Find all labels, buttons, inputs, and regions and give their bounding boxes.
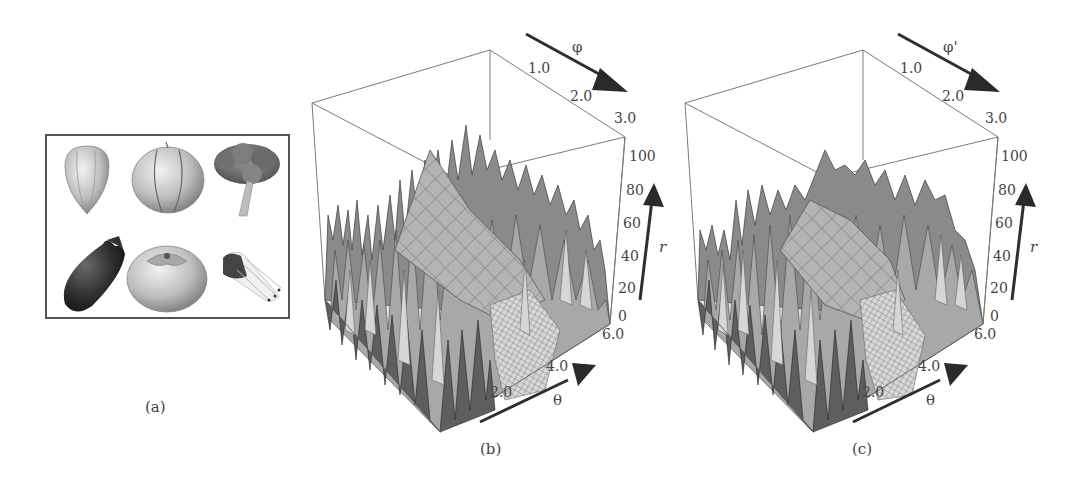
theta-axis-label-c: θ	[926, 391, 935, 409]
r-tick-b-40: 40	[621, 248, 639, 264]
r-tick-b-20: 20	[618, 280, 636, 296]
caption-c: (c)	[852, 440, 872, 458]
r-tick-b-100: 100	[629, 148, 656, 164]
theta-tick-c-6: 6.0	[974, 326, 996, 342]
r-arrow-b	[640, 200, 652, 300]
theta-tick-c-4: 4.0	[918, 358, 940, 374]
theta-arrowhead-c	[944, 363, 968, 386]
phi-tick-c-2: 2.0	[942, 88, 964, 104]
phi-axis-label-c: φ'	[943, 38, 958, 56]
theta-tick-b-4: 4.0	[546, 358, 568, 374]
r-arrow-c	[1012, 200, 1024, 300]
r-arrowhead-b	[643, 183, 664, 207]
phi-tick-b-1: 1.0	[528, 60, 550, 76]
phi-tick-b-2: 2.0	[570, 88, 592, 104]
r-tick-c-60: 60	[995, 215, 1013, 231]
r-tick-b-0: 0	[618, 308, 627, 324]
phi-tick-c-1: 1.0	[900, 60, 922, 76]
r-tick-c-80: 80	[998, 182, 1016, 198]
phi-tick-b-3: 3.0	[614, 110, 636, 126]
theta-tick-c-2: 2.0	[862, 384, 884, 400]
r-tick-c-0: 0	[990, 308, 999, 324]
r-tick-c-20: 20	[990, 280, 1008, 296]
r-tick-b-80: 80	[626, 182, 644, 198]
r-tick-c-40: 40	[993, 248, 1011, 264]
caption-b: (b)	[480, 440, 501, 458]
r-arrowhead-c	[1015, 183, 1036, 207]
r-tick-c-100: 100	[1001, 148, 1028, 164]
r-axis-label-b: r	[659, 238, 666, 256]
theta-axis-label-b: θ	[553, 391, 562, 409]
phi-axis-label-b: φ	[572, 38, 583, 56]
theta-tick-b-2: 2.0	[490, 384, 512, 400]
phi-tick-c-3: 3.0	[985, 110, 1007, 126]
r-tick-b-60: 60	[623, 215, 641, 231]
theta-tick-b-6: 6.0	[602, 326, 624, 342]
r-axis-label-c: r	[1030, 238, 1037, 256]
theta-arrowhead-b	[572, 363, 596, 386]
